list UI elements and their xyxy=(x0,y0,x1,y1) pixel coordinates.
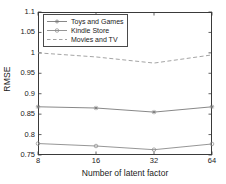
legend-marker-line-icon xyxy=(46,35,68,44)
legend-label: Kindle Store xyxy=(71,26,109,35)
chart-figure: 0.750.80.850.90.9511.051.1 8163264 RMSE … xyxy=(0,0,226,184)
x-axis-tick-label: 64 xyxy=(208,157,216,165)
legend-entry: Movies and TV xyxy=(46,35,124,44)
legend-marker-star-icon xyxy=(46,17,68,26)
y-axis-tick-label: 1.05 xyxy=(1,28,35,36)
legend-label: Movies and TV xyxy=(71,35,118,44)
x-axis-tick-label: 8 xyxy=(36,157,40,165)
data-point-marker xyxy=(55,19,59,23)
x-axis-tick-label: 32 xyxy=(150,157,158,165)
y-axis-tick-label: 1.1 xyxy=(1,8,35,16)
legend-entry: Toys and Games xyxy=(46,17,124,26)
legend-label: Toys and Games xyxy=(71,17,124,26)
x-axis-title: Number of latent factor xyxy=(38,168,212,178)
chart-legend: Toys and GamesKindle StoreMovies and TV xyxy=(43,14,128,47)
y-axis-tick-label: 0.8 xyxy=(1,131,35,139)
y-axis-title: RMSE xyxy=(2,56,12,102)
legend-entry: Kindle Store xyxy=(46,26,124,35)
x-axis-tick-label: 16 xyxy=(92,157,100,165)
y-axis-tick-label: 0.85 xyxy=(1,110,35,118)
legend-marker-circle-icon xyxy=(46,26,68,35)
